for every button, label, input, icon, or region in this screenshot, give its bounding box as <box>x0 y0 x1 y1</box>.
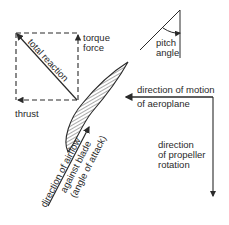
rotation-label: direction of propeller rotation <box>158 140 206 170</box>
torque-force-label: torque force <box>83 33 110 53</box>
pitch-angle-label: pitch angle <box>156 38 179 58</box>
thrust-label: thrust <box>15 109 39 119</box>
motion-label-line1: direction of motion <box>137 85 215 95</box>
motion-label-line2: of aeroplane <box>137 99 190 109</box>
torque-force-label-line2: force <box>83 43 110 53</box>
rotation-label-line3: rotation <box>158 160 206 170</box>
pitch-angle-label-line2: angle <box>156 48 179 58</box>
